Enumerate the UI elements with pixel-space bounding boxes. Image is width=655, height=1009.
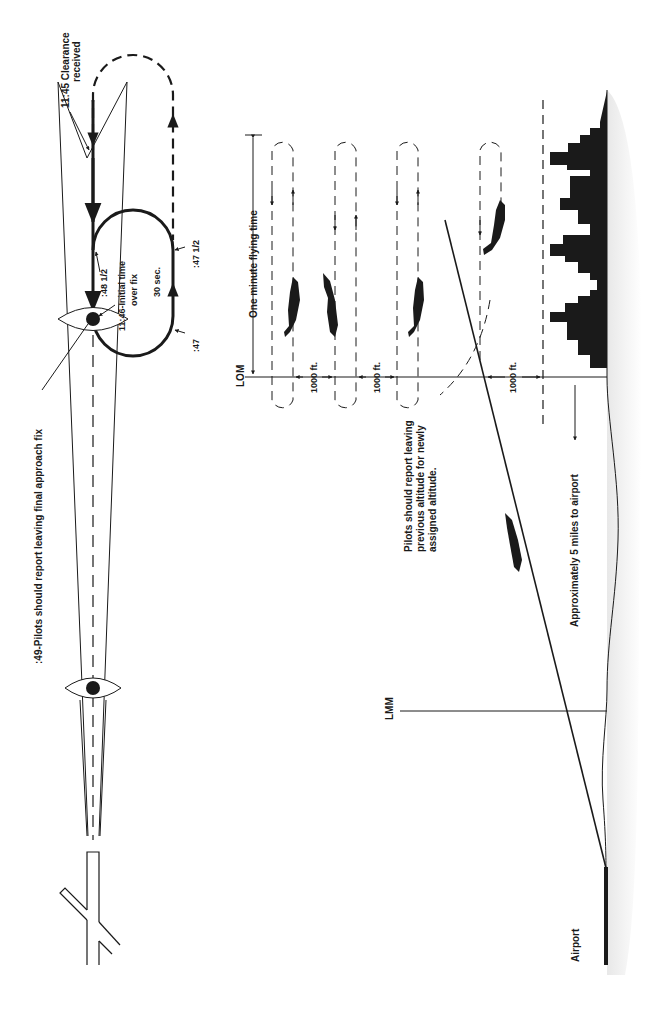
- label-clearance-received: received: [71, 41, 82, 82]
- label-thirty-sec: 30 sec.: [152, 267, 162, 297]
- leader-lines: [42, 112, 185, 390]
- label-report-altitude-1: Pilots should report leaving: [403, 420, 414, 552]
- label-sep-2: 1000 ft.: [372, 362, 382, 393]
- separation-arrows: [296, 377, 575, 440]
- label-report-altitude-3: assigned altitude.: [427, 467, 438, 552]
- label-one-minute: One minute flying time: [248, 210, 259, 318]
- label-report-leaving-fix: :49-Pilots should report leaving final a…: [33, 429, 44, 664]
- label-lmm: LMM: [384, 697, 395, 720]
- label-distance: Approximately 5 miles to airport: [569, 474, 580, 627]
- profile-view: LOM One minute flying time 1000 ft. 1000…: [235, 90, 642, 975]
- label-report-altitude-2: previous altitude for newly: [415, 425, 426, 552]
- label-initial-time-1: 11:46-Initial time: [117, 261, 127, 331]
- entry-loop-dashed: [93, 55, 173, 240]
- label-t47-half: :47 1/2: [191, 240, 201, 268]
- label-sep-1: 1000 ft.: [309, 362, 319, 393]
- plan-view: 11:45 Clearance received :48 1/2 11:46-I…: [33, 32, 201, 965]
- label-t48-half: :48 1/2: [99, 269, 109, 297]
- city-skyline: [550, 91, 607, 368]
- label-initial-time-2: over fix: [129, 274, 139, 306]
- label-t47: :47: [191, 339, 201, 352]
- label-clearance-time: 11:45 Clearance: [60, 32, 71, 108]
- middle-marker-icon: [65, 678, 121, 698]
- label-sep-3: 1000 ft.: [508, 362, 518, 393]
- label-lom: LOM: [235, 365, 246, 387]
- runway-icon: [60, 852, 120, 965]
- holding-loops: [272, 142, 501, 407]
- loop-arrows: [272, 190, 480, 235]
- ground-shade: [607, 90, 642, 975]
- approach-diagram: 11:45 Clearance received :48 1/2 11:46-I…: [0, 0, 655, 1009]
- label-airport: Airport: [570, 928, 581, 962]
